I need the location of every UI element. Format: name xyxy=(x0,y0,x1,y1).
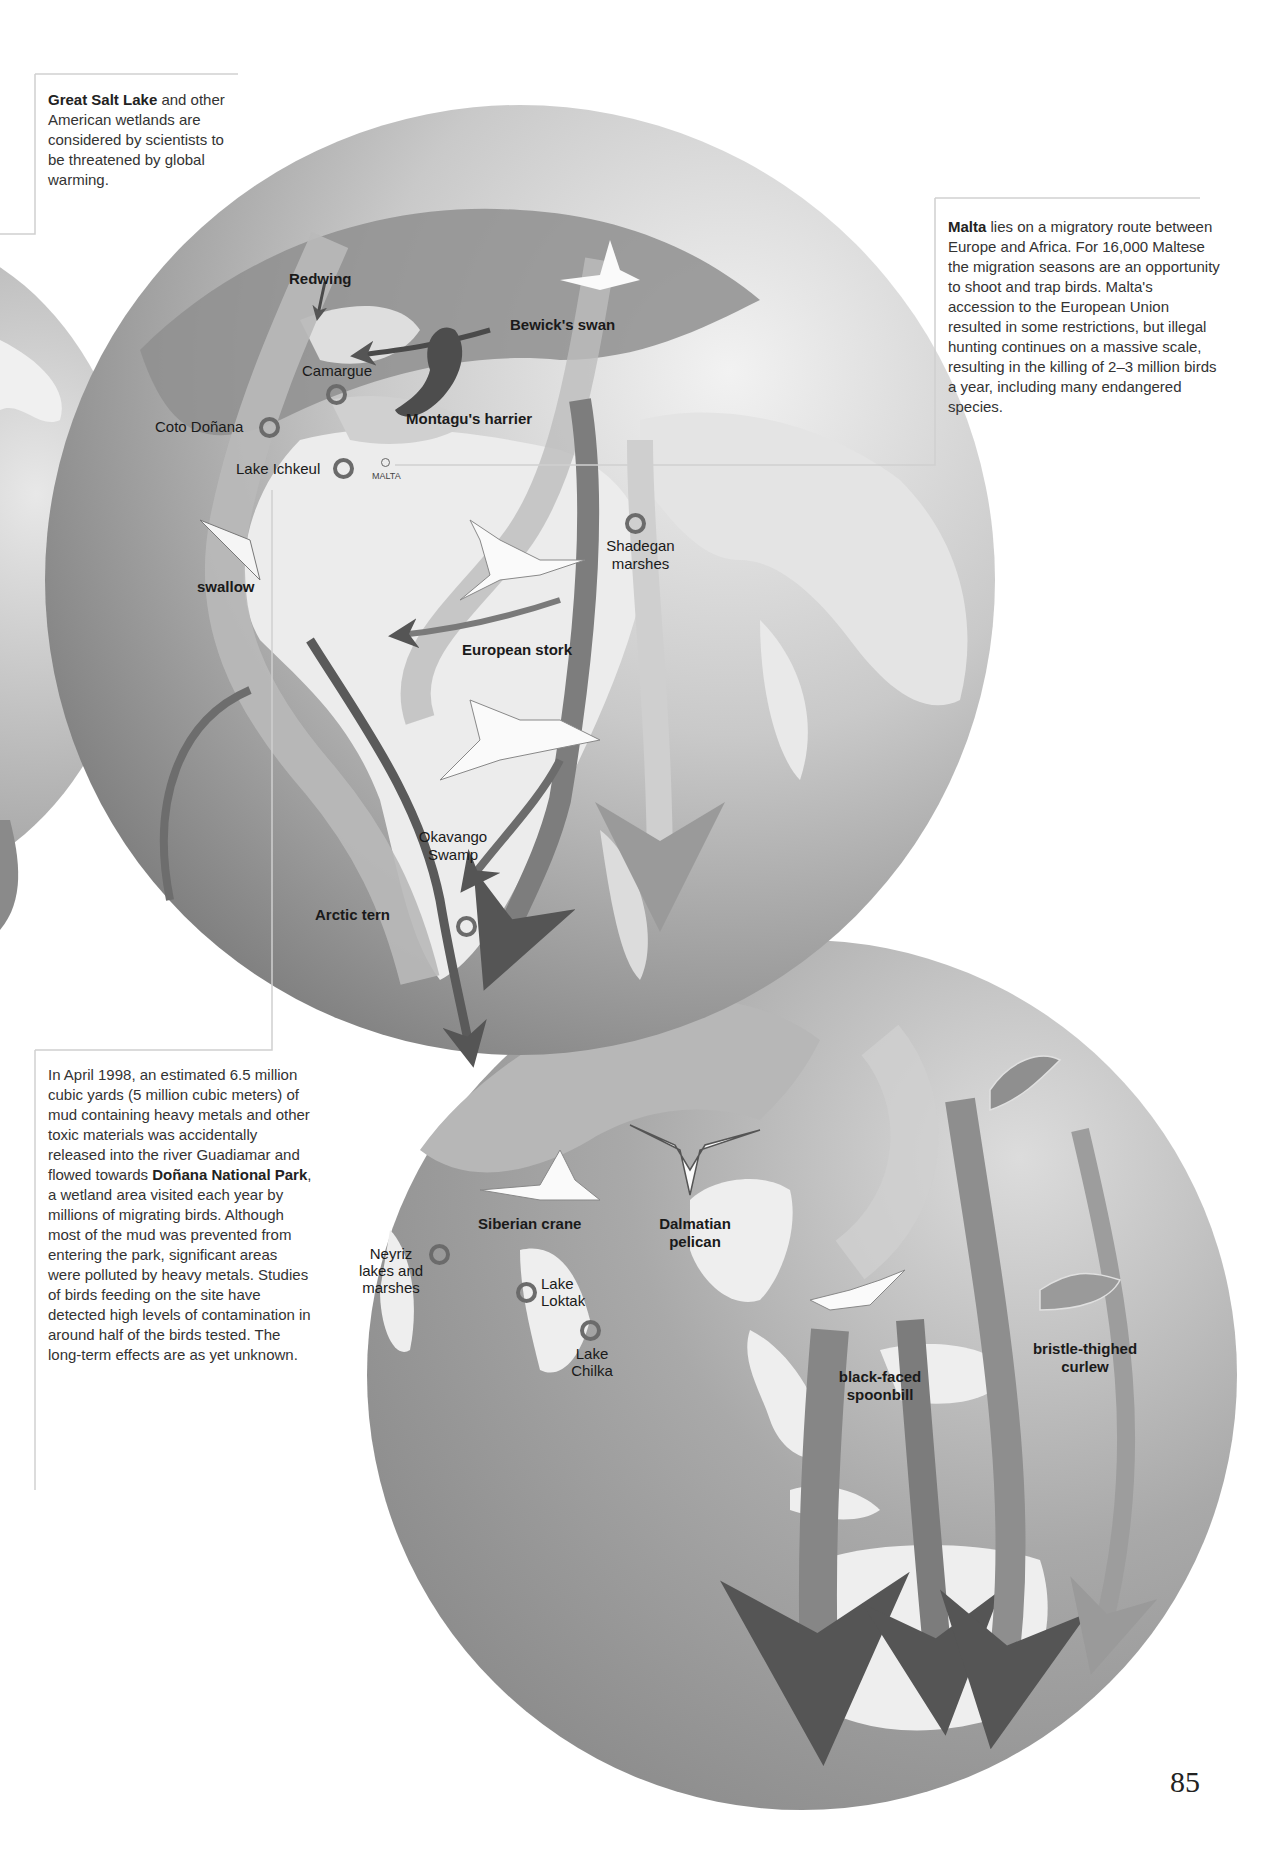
label-coto-donana: Coto Doñana xyxy=(155,418,243,436)
site-marker-coto-donana xyxy=(259,417,280,438)
malta-callout: Malta lies on a migratory route between … xyxy=(948,217,1223,417)
label-bewicks-swan: Bewick's swan xyxy=(510,316,615,334)
callout-bold-term: Doñana National Park xyxy=(152,1166,307,1183)
site-marker-shadegan xyxy=(625,513,646,534)
upper-globe xyxy=(45,105,995,1055)
site-marker-lake-chilka xyxy=(580,1320,601,1341)
label-swallow: swallow xyxy=(197,578,255,596)
label-lake-ichkeul: Lake Ichkeul xyxy=(236,460,320,478)
label-european-stork: European stork xyxy=(462,641,572,659)
label-redwing: Redwing xyxy=(289,270,352,288)
page-number: 85 xyxy=(1170,1765,1200,1799)
label-camargue: Camargue xyxy=(302,362,372,380)
label-lake-chilka: Lake Chilka xyxy=(562,1345,622,1379)
site-marker-camargue xyxy=(326,384,347,405)
site-marker-malta xyxy=(381,458,390,467)
label-bristle-thighed-curlew: bristle-thighed curlew xyxy=(1015,1340,1155,1376)
atlas-page: Great Salt Lake and other American wetla… xyxy=(0,0,1283,1849)
label-malta: MALTA xyxy=(372,471,401,481)
site-marker-okavango xyxy=(456,916,477,937)
callout-text: lies on a migratory route between Europe… xyxy=(948,218,1220,415)
great-salt-lake-callout: Great Salt Lake and other American wetla… xyxy=(48,90,233,190)
site-marker-lake-loktak xyxy=(516,1282,537,1303)
label-neyriz-lakes: Neyriz lakes and marshes xyxy=(356,1245,426,1296)
site-marker-neyriz xyxy=(429,1244,450,1265)
label-black-faced-spoonbill: black-faced spoonbill xyxy=(830,1368,930,1404)
label-montagus-harrier: Montagu's harrier xyxy=(406,410,532,428)
callout-text: , a wetland area visited each year by mi… xyxy=(48,1166,311,1363)
label-lake-loktak: Lake Loktak xyxy=(541,1275,601,1309)
callout-bold-term: Malta xyxy=(948,218,986,235)
label-dalmatian-pelican: Dalmatian pelican xyxy=(645,1215,745,1251)
donana-callout: In April 1998, an estimated 6.5 million … xyxy=(48,1065,313,1365)
label-shadegan-marshes: Shadegan marshes xyxy=(598,537,683,573)
label-arctic-tern: Arctic tern xyxy=(315,906,390,924)
site-marker-lake-ichkeul xyxy=(333,458,354,479)
label-siberian-crane: Siberian crane xyxy=(478,1215,581,1233)
callout-bold-term: Great Salt Lake xyxy=(48,91,157,108)
label-okavango-swamp: Okavango Swamp xyxy=(418,828,488,864)
